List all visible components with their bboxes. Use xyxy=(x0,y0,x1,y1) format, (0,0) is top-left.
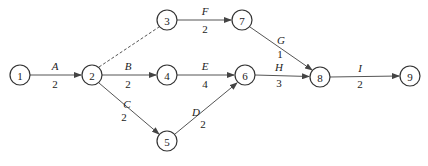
edge-i xyxy=(330,76,399,77)
edge-b-activity: B xyxy=(125,60,132,72)
node-8-label: 8 xyxy=(317,72,323,84)
edge-f-activity: F xyxy=(201,5,209,17)
network-diagram: A 2 B 2 C 2 F 2 E 4 D 2 G 1 H 3 I 2 1 2 … xyxy=(0,0,428,166)
edge-e-activity: E xyxy=(201,60,209,72)
edge-g-activity: G xyxy=(277,34,285,46)
node-7-label: 7 xyxy=(239,15,245,27)
edge-a-duration: 2 xyxy=(52,78,58,90)
edge-a-activity: A xyxy=(51,60,59,72)
edge-b-duration: 2 xyxy=(125,78,131,90)
edge-d-activity: D xyxy=(191,106,200,118)
edge-h-activity: H xyxy=(274,61,284,73)
node-3-label: 3 xyxy=(164,15,170,27)
edge-i-activity: I xyxy=(357,62,363,74)
edge-h-duration: 3 xyxy=(276,77,282,89)
edge-d xyxy=(175,83,237,134)
edge-h xyxy=(255,75,309,77)
node-6: 6 xyxy=(235,65,255,85)
node-3: 3 xyxy=(157,10,177,30)
node-5: 5 xyxy=(157,131,177,151)
edge-g-duration: 1 xyxy=(277,48,283,60)
node-7: 7 xyxy=(232,10,252,30)
node-5-label: 5 xyxy=(164,136,170,148)
edge-d-duration: 2 xyxy=(200,118,206,130)
node-1-label: 1 xyxy=(17,70,23,82)
edge-f-duration: 2 xyxy=(202,23,208,35)
edge-c-activity: C xyxy=(123,98,131,110)
node-6-label: 6 xyxy=(242,70,248,82)
node-2: 2 xyxy=(82,65,102,85)
node-9: 9 xyxy=(400,66,420,86)
node-1: 1 xyxy=(10,65,30,85)
node-4-label: 4 xyxy=(164,70,170,82)
edge-c-duration: 2 xyxy=(121,111,127,123)
edge-e-duration: 4 xyxy=(202,78,208,90)
edge-i-duration: 2 xyxy=(357,78,363,90)
node-2-label: 2 xyxy=(89,70,95,82)
node-9-label: 9 xyxy=(407,71,413,83)
node-4: 4 xyxy=(157,65,177,85)
node-8: 8 xyxy=(310,67,330,87)
